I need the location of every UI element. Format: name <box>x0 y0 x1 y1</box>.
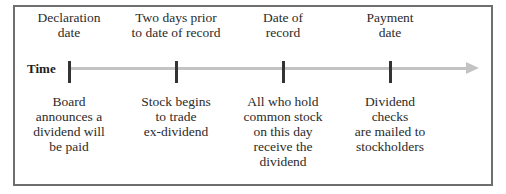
declaration-date-description: Board announces a dividend will be paid <box>14 94 124 154</box>
record-date-description: All who hold common stock on this day re… <box>228 94 338 169</box>
time-axis-label: Time <box>27 61 56 77</box>
payment-date-tick <box>389 61 392 83</box>
payment-date-label: Payment date <box>335 10 445 40</box>
declaration-date-label: Declaration date <box>14 10 124 40</box>
record-date-label: Date of record <box>228 10 338 40</box>
payment-date-description: Dividend checks are mailed to stockholde… <box>335 94 445 154</box>
ex-dividend-date-label: Two days prior to date of record <box>121 10 231 40</box>
timeline-axis <box>70 67 470 70</box>
record-date-tick <box>282 61 285 83</box>
timeline-arrow-icon <box>466 62 479 74</box>
ex-dividend-date-description: Stock begins to trade ex-dividend <box>121 94 231 139</box>
ex-dividend-date-tick <box>175 61 178 83</box>
declaration-date-tick <box>68 61 71 83</box>
